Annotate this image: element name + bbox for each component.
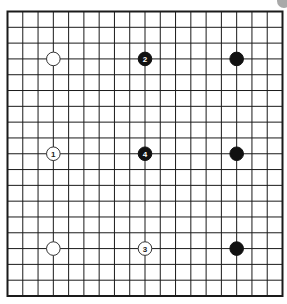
black-stone[interactable]: 4	[138, 147, 152, 161]
stone-circle	[230, 52, 244, 66]
move-number-label: 3	[143, 245, 148, 254]
white-stone[interactable]: 1	[47, 147, 61, 161]
white-stone[interactable]	[47, 242, 61, 256]
black-stone[interactable]: 2	[138, 52, 152, 66]
move-number-label: 1	[51, 150, 56, 159]
stone-circle	[47, 52, 61, 66]
white-stone[interactable]	[47, 52, 61, 66]
black-stone[interactable]	[230, 52, 244, 66]
stone-circle	[47, 242, 61, 256]
black-stone[interactable]	[230, 147, 244, 161]
white-stone[interactable]: 3	[138, 242, 152, 256]
move-number-label: 2	[143, 55, 148, 64]
stone-circle	[230, 147, 244, 161]
go-board[interactable]: 2143	[0, 0, 287, 304]
stone-circle	[230, 242, 244, 256]
move-number-label: 4	[143, 150, 148, 159]
black-stone[interactable]	[230, 242, 244, 256]
